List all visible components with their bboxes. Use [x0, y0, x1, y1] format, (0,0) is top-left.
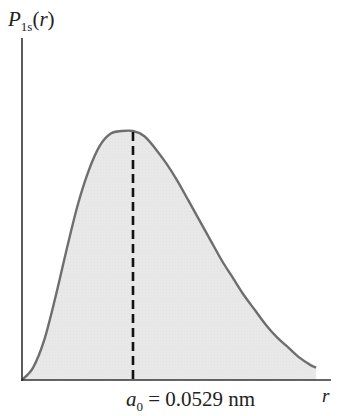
y-axis-label: P1s(r)	[8, 7, 55, 35]
radial-probability-chart	[0, 0, 343, 416]
x-axis-label: r	[322, 385, 329, 407]
peak-annotation: a0 = 0.0529 nm	[126, 387, 255, 415]
y-axis-label-subscript: 1s	[21, 19, 33, 34]
